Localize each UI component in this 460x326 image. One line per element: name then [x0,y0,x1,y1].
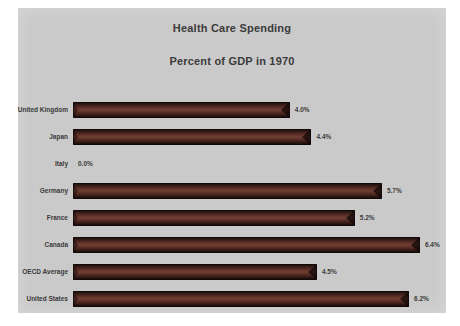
bar-row-italy: Italy0.0% [18,150,446,177]
bar-row-canada: Canada6.4% [18,231,446,258]
value-label: 0.0% [78,160,93,167]
category-label: OECD Average [18,268,73,275]
bar-rows: United Kingdom4.0%Japan4.4%Italy0.0%Germ… [18,96,446,312]
value-label: 4.4% [316,133,331,140]
bar-row-united-kingdom: United Kingdom4.0% [18,96,446,123]
category-label: United States [18,295,73,302]
category-label: United Kingdom [18,106,73,113]
bar-row-germany: Germany5.7% [18,177,446,204]
bar [73,291,409,307]
category-label: Germany [18,187,73,194]
value-label: 5.2% [360,214,375,221]
chart-title: Health Care Spending [18,22,446,34]
bar [73,264,317,280]
bar [73,210,355,226]
value-label: 4.0% [295,106,310,113]
plot-area: Health Care Spending Percent of GDP in 1… [18,8,446,313]
chart-subtitle: Percent of GDP in 1970 [18,55,446,67]
bar [73,102,290,118]
value-label: 6.2% [414,295,429,302]
category-label: Italy [18,160,73,167]
bar-row-oecd-average: OECD Average4.5% [18,258,446,285]
category-label: France [18,214,73,221]
value-label: 6.4% [425,241,440,248]
bar-row-united-states: United States6.2% [18,285,446,312]
bar [73,237,420,253]
value-label: 4.5% [322,268,337,275]
bar-row-france: France5.2% [18,204,446,231]
bar [73,183,382,199]
category-label: Canada [18,241,73,248]
category-label: Japan [18,133,73,140]
chart-frame: Health Care Spending Percent of GDP in 1… [0,0,460,326]
bar-row-japan: Japan4.4% [18,123,446,150]
bar [73,129,311,145]
value-label: 5.7% [387,187,402,194]
